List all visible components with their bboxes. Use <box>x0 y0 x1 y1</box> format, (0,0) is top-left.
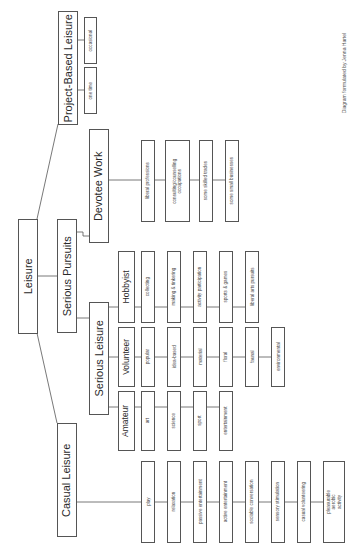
leaf-consulting-counselling: consulting/counselling occupations <box>165 140 190 222</box>
leaf-casual-volunteering: casual volunteering <box>297 461 311 543</box>
node-amateur: Amateur <box>118 391 135 451</box>
node-label: Casual Leisure <box>61 443 74 516</box>
leaf-sociable-conversation: sociable conversation <box>245 461 259 543</box>
node-hobbyist: Hobbyist <box>118 251 135 323</box>
leaf-science: science <box>167 391 181 451</box>
node-serious-pursuits: Serious Pursuits <box>57 219 77 333</box>
leaf-play: play <box>141 461 155 543</box>
leaf-activity-participation: activity participation <box>193 251 207 323</box>
leaf-sport: sport <box>193 391 207 451</box>
leaf-sensory-stimulation: sensory stimulation <box>271 461 285 543</box>
leaf-some-small-businesses: some small businesses <box>225 140 239 222</box>
node-serious-leisure: Serious Leisure <box>89 302 109 415</box>
leaf-pleasurable-aerobic-activity: pleasurable aerobic activity <box>323 461 345 543</box>
leaf-some-skilled-trades: some skilled trades <box>199 140 213 222</box>
leaf-relaxation: relaxation <box>167 461 181 543</box>
leaf-faunal: faunal <box>245 327 259 387</box>
node-leisure: Leisure <box>18 219 38 334</box>
node-label: Serious Leisure <box>93 320 106 396</box>
leaf-material: material <box>193 327 207 387</box>
node-casual-leisure: Casual Leisure <box>57 423 77 537</box>
leaf-popular: popular <box>141 327 155 387</box>
node-volunteer: Volunteer <box>118 327 135 387</box>
leaf-environmental: environmental <box>271 327 285 387</box>
leaf-occasional: occasional <box>84 17 97 64</box>
leaf-one-time: one time <box>84 67 97 114</box>
leaf-sports-games: sports & games <box>219 251 233 323</box>
leaf-art: art <box>141 391 155 451</box>
node-devotee-work: Devotee Work <box>89 129 109 243</box>
leaf-active-entertainment: active entertainment <box>219 461 233 543</box>
node-label: Project-Based Leisure <box>62 14 75 122</box>
node-label: Devotee Work <box>93 151 106 221</box>
node-project-based-leisure: Project-Based Leisure <box>58 11 78 125</box>
diagram-credit: Diagram formulated by Jenna Hartel <box>339 20 349 126</box>
leisure-taxonomy-diagram: Leisure Project-Based Leisure occasional… <box>0 0 361 560</box>
leaf-collecting: collecting <box>141 251 155 323</box>
leaf-making-tinkering: making & tinkering <box>167 251 181 323</box>
leaf-idea-based: idea-based <box>167 327 181 387</box>
leaf-passive-entertainment: passive entertainment <box>193 461 207 543</box>
leaf-floral: floral <box>219 327 233 387</box>
leaf-entertainment: entertainment <box>219 391 233 451</box>
node-label: Leisure <box>22 258 35 294</box>
leaf-liberal-professions: liberal professions <box>141 140 155 222</box>
node-label: Serious Pursuits <box>61 236 74 316</box>
leaf-liberal-arts-pursuits: liberal arts pursuits <box>245 251 259 323</box>
